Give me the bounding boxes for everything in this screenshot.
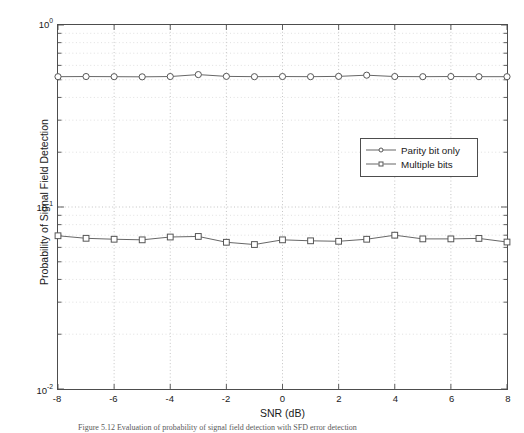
legend-label-multiple-bits: Multiple bits	[401, 159, 453, 170]
x-tick--6: -6	[109, 393, 117, 404]
plot-area	[57, 24, 508, 390]
circle-marker-icon	[366, 144, 396, 156]
x-tick-4: 4	[393, 393, 398, 404]
x-tick--4: -4	[166, 393, 174, 404]
data-series-layer	[58, 25, 507, 389]
x-tick-0: 0	[280, 393, 285, 404]
x-tick-6: 6	[449, 393, 454, 404]
legend-item-multiple-bits[interactable]: Multiple bits	[366, 157, 472, 171]
x-axis-title: SNR (dB)	[57, 407, 508, 419]
figure-caption: Figure 5.12 Evaluation of probability of…	[78, 423, 508, 433]
square-marker-icon	[366, 158, 396, 170]
y-tick-1e0: 100	[39, 19, 53, 30]
y-tick-1e-2: 10-2	[36, 385, 53, 396]
figure-container: 100 10-1 10-2 -8 -6 -4 -2 0 2 4 6 8 SNR …	[0, 0, 524, 433]
x-tick--8: -8	[53, 393, 61, 404]
x-tick-2: 2	[336, 393, 341, 404]
x-tick-8: 8	[505, 393, 510, 404]
legend-label-parity-bit-only: Parity bit only	[401, 145, 460, 156]
x-tick--2: -2	[222, 393, 230, 404]
legend-item-parity-bit-only[interactable]: Parity bit only	[366, 143, 472, 157]
y-axis-title: Probability of Signal Field Detection	[38, 62, 50, 342]
legend[interactable]: Parity bit only Multiple bits	[360, 138, 478, 177]
